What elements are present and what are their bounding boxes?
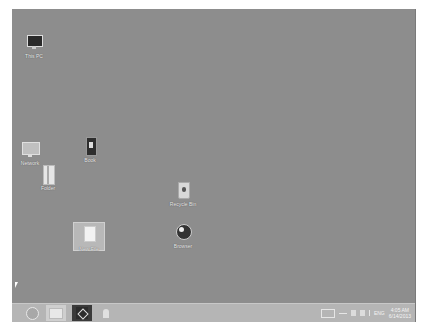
keyboard-icon[interactable] xyxy=(321,309,335,318)
recycle-bin-icon xyxy=(174,181,192,199)
icon-label: Recycle Bin xyxy=(165,201,201,207)
desktop-icon-new-file[interactable]: New File xyxy=(73,222,105,251)
start-button[interactable] xyxy=(22,305,42,321)
folder-icon xyxy=(39,165,57,183)
document-icon xyxy=(81,137,99,155)
pin-icon xyxy=(103,309,109,318)
icon-label: New File xyxy=(74,246,104,252)
taskbar-file-explorer[interactable] xyxy=(46,305,66,321)
start-orb-icon xyxy=(26,307,39,320)
folder-icon xyxy=(49,308,63,319)
desktop-icon-browser[interactable]: Browser xyxy=(165,223,201,249)
desktop-icon-folder[interactable]: Folder xyxy=(30,165,66,191)
desktop-icon-this-pc[interactable]: This PC xyxy=(16,33,52,59)
screen: This PC Network Book Folder Recycle Bin … xyxy=(12,9,416,322)
desktop-icon-book[interactable]: Book xyxy=(72,137,108,163)
show-hidden-icons[interactable] xyxy=(339,313,347,314)
language-indicator[interactable]: ENG xyxy=(374,310,385,316)
volume-icon[interactable] xyxy=(369,310,370,316)
taskbar-pinned-app[interactable] xyxy=(96,305,116,321)
network-icon xyxy=(21,140,39,158)
file-icon xyxy=(80,226,98,244)
icon-label: This PC xyxy=(16,53,52,59)
desktop-icon-recycle-bin[interactable]: Recycle Bin xyxy=(165,181,201,207)
clock-date: 6/14/2013 xyxy=(389,313,411,319)
taskbar: ENG 4:05 AM 6/14/2013 xyxy=(12,303,415,322)
computer-icon xyxy=(25,33,43,51)
taskbar-acrobat[interactable] xyxy=(72,305,92,321)
globe-icon xyxy=(174,223,192,241)
icon-label: Browser xyxy=(165,243,201,249)
clock[interactable]: 4:05 AM 6/14/2013 xyxy=(389,307,411,319)
desktop: This PC Network Book Folder Recycle Bin … xyxy=(12,9,415,303)
desktop-icon-network[interactable]: Network xyxy=(12,140,48,166)
network-tray-icon[interactable] xyxy=(360,310,365,316)
pdf-icon xyxy=(76,307,88,319)
mouse-cursor-icon xyxy=(15,282,18,288)
system-tray: ENG 4:05 AM 6/14/2013 xyxy=(321,306,411,320)
flag-icon[interactable] xyxy=(351,310,356,316)
icon-label: Book xyxy=(72,157,108,163)
icon-label: Folder xyxy=(30,185,66,191)
